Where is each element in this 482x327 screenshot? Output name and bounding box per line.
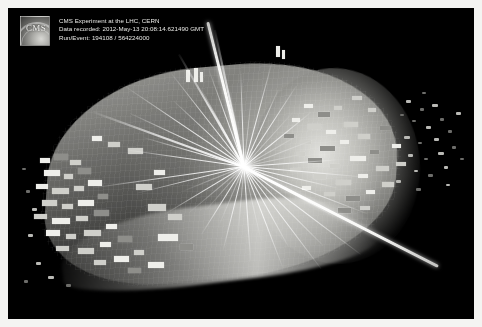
energy-deposit [326,130,336,134]
energy-deposit [34,214,47,219]
energy-deposit [94,210,109,216]
energy-deposit [70,160,81,165]
detector-hit [424,158,428,160]
energy-deposit [76,216,88,221]
detector-hit [452,146,456,149]
detector-hit [444,166,448,169]
photo-frame: CMS CMS Experiment at the LHC, CERN Data… [0,0,482,327]
energy-deposit [148,262,164,268]
detector-hit [396,180,401,183]
muon-tower [282,50,285,59]
energy-deposit [46,230,60,236]
detector-hit [400,114,404,116]
collision-vertex [226,148,262,184]
energy-deposit [314,174,326,179]
detector-hit [448,130,452,133]
energy-deposit [98,194,108,199]
detector-hit [446,184,450,186]
energy-deposit [92,136,102,141]
detector-hit [48,276,54,279]
energy-deposit [318,112,330,117]
energy-deposit [376,166,389,171]
energy-deposit [54,154,68,160]
muon-tower [276,46,280,57]
detector-hit [420,108,424,111]
energy-deposit [352,96,362,100]
detector-hit [412,120,416,122]
energy-deposit [108,142,120,147]
caption-date-line: Data recorded: 2012-May-13 20:08:14.6214… [59,25,204,33]
energy-deposit [392,144,401,148]
energy-deposit [78,168,91,174]
detector-hit [408,154,413,157]
energy-deposit [44,170,60,176]
cms-logo-wordmark: CMS [21,23,50,33]
energy-deposit [128,268,141,273]
energy-deposit [62,204,73,209]
energy-deposit [340,140,349,144]
energy-deposit [304,104,313,108]
detector-hit [406,100,411,103]
energy-deposit [330,164,340,168]
detector-hit [428,174,433,177]
detector-hit [414,170,418,172]
detector-hit [434,138,439,141]
energy-deposit [350,156,366,161]
energy-deposit [396,162,406,166]
cms-logo: CMS [20,16,50,46]
energy-deposit [52,188,69,194]
caption-runevent-line: Run/Event: 194108 / 564224000 [59,34,204,42]
energy-deposit [36,184,48,189]
energy-deposit [84,230,101,236]
energy-deposit [324,192,335,196]
energy-deposit [308,124,321,129]
energy-deposit [64,174,73,179]
energy-deposit [320,146,335,151]
cms-event-display-canvas: CMS CMS Experiment at the LHC, CERN Data… [8,8,474,319]
energy-deposit [134,250,144,255]
energy-deposit [118,236,132,242]
energy-deposit [180,244,193,250]
energy-deposit [40,158,50,163]
energy-deposit [380,126,391,130]
energy-deposit [360,206,370,210]
detector-hit [460,158,464,160]
detector-hit [418,142,422,144]
energy-deposit [74,186,84,191]
energy-deposit [52,218,70,224]
energy-deposit [56,246,69,251]
detector-hit [422,92,426,94]
energy-deposit [66,234,76,239]
energy-deposit [334,106,342,110]
energy-deposit [154,170,165,175]
detector-hit [66,284,71,287]
detector-hit [28,234,33,237]
energy-deposit [158,234,178,241]
detector-hit [416,188,421,191]
energy-deposit [338,208,351,213]
muon-tower [200,72,203,82]
energy-deposit [336,180,351,185]
energy-deposit [78,248,94,254]
energy-deposit [78,200,94,206]
energy-deposit [148,204,166,211]
energy-deposit [106,224,117,229]
detector-hit [438,152,444,155]
detector-hit [432,104,438,107]
energy-deposit [168,214,182,220]
detector-hit [24,280,28,283]
energy-deposit [344,122,358,127]
energy-deposit [366,190,375,194]
energy-deposit [42,200,57,206]
energy-deposit [346,196,360,201]
energy-deposit [370,150,379,154]
energy-deposit [100,242,111,247]
energy-deposit [114,256,129,262]
detector-hit [36,262,41,265]
energy-deposit [368,108,376,112]
detector-hit [32,208,37,211]
detector-hit [426,126,431,129]
energy-deposit [382,182,394,187]
detector-hit [404,136,410,139]
detector-hit [26,190,30,193]
